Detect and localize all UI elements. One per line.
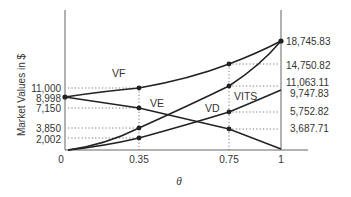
y-tick-9747: 9,747.83 [290,88,329,99]
x-tick-0: 0 [58,154,64,165]
point-vd-035 [137,136,142,141]
point-vits-075 [227,84,232,89]
y-tick-3687: 3,687.71 [290,123,329,134]
y-tick-11063: 11,063.11 [286,77,329,88]
ve-label: VE [150,97,164,109]
point-ve-035 [137,106,142,111]
point-vits-035 [137,126,142,131]
x-axis-title: θ [176,176,182,187]
point-vf-075 [227,62,232,67]
point-vd-075 [227,110,232,115]
y-tick-2002: 2,002 [36,134,61,145]
market-value-diagram: VF VE VD VITS 11,000 8,998 7,150 3,850 2… [0,0,351,197]
y-tick-5752: 5,752.82 [290,106,329,117]
vf-label: VF [112,67,125,79]
point-vf-035 [137,86,142,91]
ve-curve [65,97,281,149]
y-tick-3850: 3,850 [36,123,61,134]
y-tick-14750: 14,750.82 [286,60,331,71]
x-tick-1: 1 [278,154,284,165]
point-start-8998 [62,94,67,99]
vf-curve [65,41,281,97]
y-axis-title: Market Values in $ [16,54,27,137]
point-ve-075 [227,127,232,132]
x-tick-035: 0.35 [129,154,149,165]
x-tick-075: 0.75 [219,154,239,165]
point-end-18745 [278,38,283,43]
vits-label: VITS [234,90,257,102]
y-tick-18745: 18,745.83 [286,36,331,47]
y-tick-7150: 7,150 [36,103,61,114]
vd-label: VD [205,102,220,114]
